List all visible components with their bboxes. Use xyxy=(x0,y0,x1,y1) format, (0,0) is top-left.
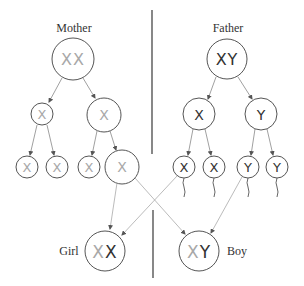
father-cell: XY xyxy=(207,39,247,79)
arrow xyxy=(251,129,255,155)
polar-body: X xyxy=(46,156,68,178)
svg-text:X: X xyxy=(85,160,94,175)
arrow xyxy=(238,77,252,99)
egg-to-boy-arrow xyxy=(135,178,185,234)
girl-cell: XX xyxy=(85,231,125,271)
arrow xyxy=(49,78,62,102)
egg-to-girl-arrow xyxy=(110,183,117,229)
x-sperm-to-girl-arrow xyxy=(122,176,177,235)
sperm-cell: Y xyxy=(237,156,259,178)
sperm-tail xyxy=(213,178,215,197)
svg-text:XX: XX xyxy=(92,242,117,262)
sperm-tail xyxy=(183,178,185,197)
mother-cell: XX xyxy=(52,38,94,80)
father-meiosis-cell-left: X xyxy=(183,98,215,130)
arrow xyxy=(188,129,193,155)
father-meiosis-cell-right: Y xyxy=(245,98,277,130)
girl-label: Girl xyxy=(59,244,79,258)
sperm-tail xyxy=(276,178,278,197)
boy-label: Boy xyxy=(227,244,247,258)
svg-text:Y: Y xyxy=(272,160,281,175)
mother-meiosis-cell-right: X xyxy=(87,98,121,132)
svg-text:X: X xyxy=(99,107,109,123)
svg-text:X: X xyxy=(53,160,62,175)
svg-text:X: X xyxy=(38,107,47,122)
mother-meiosis-cell-left: X xyxy=(31,103,53,125)
father-label: Father xyxy=(213,21,244,35)
svg-text:Y: Y xyxy=(243,160,252,175)
arrow xyxy=(92,131,97,155)
arrow xyxy=(267,129,273,155)
svg-text:XY: XY xyxy=(216,50,239,69)
svg-text:X: X xyxy=(23,160,32,175)
polar-body: X xyxy=(78,156,100,178)
arrow xyxy=(47,125,54,155)
svg-text:X: X xyxy=(210,160,219,175)
arrow xyxy=(83,78,95,98)
boy-cell: XY xyxy=(179,231,219,271)
y-sperm-to-boy-arrow xyxy=(211,177,242,233)
svg-text:XY: XY xyxy=(187,242,211,262)
sperm-cell: X xyxy=(173,156,195,178)
sperm-tail xyxy=(247,178,249,197)
arrow xyxy=(205,129,211,155)
polar-body: X xyxy=(16,156,38,178)
arrow xyxy=(208,77,216,99)
svg-text:X: X xyxy=(194,107,204,123)
egg-cell: X xyxy=(105,150,139,184)
sex-determination-diagram: Mother XX X X X X X X Father xyxy=(0,0,304,286)
arrow xyxy=(30,125,37,155)
svg-text:X: X xyxy=(117,159,127,175)
arrow xyxy=(110,131,116,150)
svg-text:X: X xyxy=(180,160,189,175)
sperm-cell: X xyxy=(203,156,225,178)
sperm-cell: Y xyxy=(266,156,288,178)
mother-label: Mother xyxy=(56,21,91,35)
svg-text:XX: XX xyxy=(61,50,85,69)
svg-text:Y: Y xyxy=(256,107,266,123)
